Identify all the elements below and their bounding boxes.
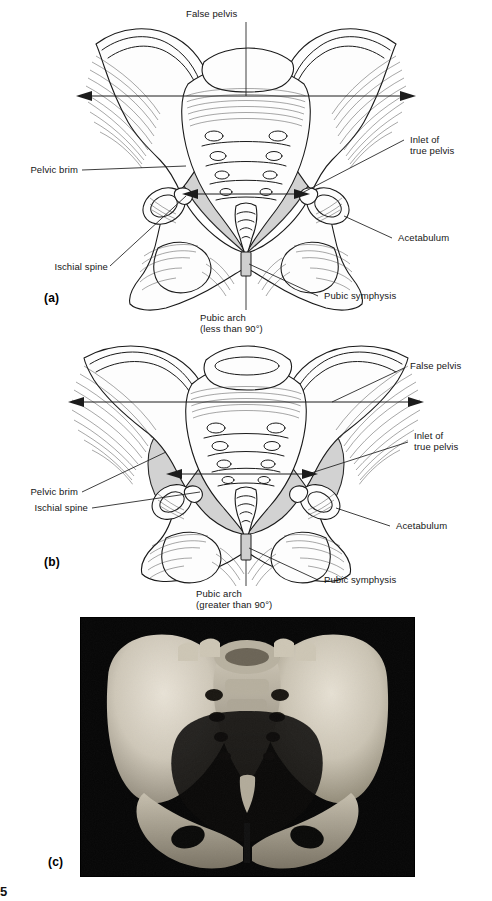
label-ischial-spine-a: Ischial spine: [26, 261, 108, 272]
leader-acetabulum: [344, 216, 392, 238]
label-ischial-spine-b: Ischial spine: [6, 502, 88, 513]
label-pubic-symphysis-a: Pubic symphysis: [324, 290, 396, 301]
page-number: 5: [0, 884, 18, 901]
label-false-pelvis-b: False pelvis: [410, 360, 461, 371]
label-inlet-line1-b: Inlet of: [414, 430, 443, 441]
pelvis-photograph: [80, 617, 415, 877]
female-pelvis-drawing: [0, 336, 492, 598]
label-inlet-line1-a: Inlet of: [410, 134, 439, 145]
coccyx: [235, 203, 257, 256]
label-acetabulum-b: Acetabulum: [396, 520, 447, 531]
label-inlet-line2-b: true pelvis: [414, 441, 458, 452]
lumbar-vertebra: [202, 48, 293, 92]
pelvis-comparison-figure: False pelvis Inlet oftrue pelvis Acetabu…: [0, 0, 492, 901]
panel-a-male-pelvis: False pelvis Inlet oftrue pelvis Acetabu…: [0, 0, 492, 330]
label-pubic-arch-line1-a: Pubic arch: [200, 312, 246, 323]
panel-letter-b: (b): [44, 555, 60, 569]
pelvis-photo-content: [80, 617, 415, 877]
label-pelvic-brim-b: Pelvic brim: [0, 486, 78, 497]
leader-acetabulum: [336, 508, 390, 526]
panel-c-pelvis-photo: (c): [0, 598, 492, 901]
label-inlet-true-pelvis-b: Inlet oftrue pelvis: [414, 430, 458, 452]
label-inlet-line2-a: true pelvis: [410, 145, 454, 156]
label-pelvic-brim-a: Pelvic brim: [0, 164, 78, 175]
panel-letter-a: (a): [44, 291, 59, 305]
label-pubic-arch-a: Pubic arch(less than 90°): [200, 312, 263, 334]
obturator-foramen-left: [162, 532, 221, 583]
label-inlet-true-pelvis-a: Inlet oftrue pelvis: [410, 134, 454, 156]
obturator-foramen-right: [271, 532, 330, 583]
pubic-symphysis-joint: [241, 534, 251, 560]
obturator-foramen-left: [154, 242, 211, 293]
obturator-foramen-right: [281, 242, 338, 293]
label-acetabulum-a: Acetabulum: [398, 232, 449, 243]
label-false-pelvis-a: False pelvis: [186, 8, 237, 19]
panel-letter-c: (c): [48, 855, 63, 869]
panel-b-female-pelvis: False pelvis Inlet oftrue pelvis Acetabu…: [0, 336, 492, 598]
label-pubic-arch-line2-a: (less than 90°): [200, 323, 263, 334]
label-pubic-symphysis-b: Pubic symphysis: [324, 574, 396, 585]
